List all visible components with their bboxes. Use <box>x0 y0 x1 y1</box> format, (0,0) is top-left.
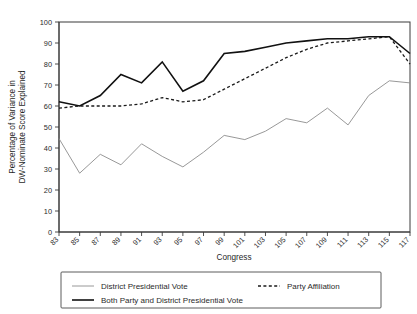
x-tick-label: 99 <box>213 235 225 247</box>
legend-label-0: District Presidential Vote <box>101 282 188 291</box>
x-tick-label: 89 <box>110 235 122 247</box>
x-tick-label: 83 <box>48 235 60 247</box>
series-line-1 <box>59 37 410 108</box>
x-tick-label: 91 <box>131 235 143 247</box>
x-tick-label: 115 <box>376 235 391 250</box>
x-tick-label: 109 <box>314 235 329 250</box>
y-tick-label: 50 <box>44 123 52 132</box>
x-tick-label: 97 <box>193 235 205 247</box>
x-tick-label: 103 <box>252 235 267 250</box>
y-tick-label: 100 <box>40 18 52 27</box>
y-axis-title-line1: Percentage of Variance in <box>8 80 17 174</box>
y-tick-label: 60 <box>44 102 52 111</box>
series-line-2 <box>59 37 410 106</box>
legend-label-2: Both Party and District Presidential Vot… <box>101 296 243 305</box>
y-tick-label: 10 <box>44 207 52 216</box>
y-tick-label: 0 <box>48 228 52 237</box>
x-tick-label: 93 <box>151 235 163 247</box>
y-tick-label: 40 <box>44 144 52 153</box>
y-axis-title-line2: DW-Nominate Score Explained <box>18 70 27 184</box>
y-axis: 0102030405060708090100 <box>40 18 59 237</box>
line-chart: 0102030405060708090100 83858789919395979… <box>0 0 417 314</box>
x-tick-label: 105 <box>272 235 287 250</box>
y-tick-label: 20 <box>44 186 52 195</box>
x-tick-label: 85 <box>69 235 81 247</box>
series-line-0 <box>59 81 410 173</box>
x-tick-label: 113 <box>355 235 370 250</box>
chart-legend: District Presidential VoteParty Affiliat… <box>61 272 381 308</box>
data-series-group <box>59 37 410 174</box>
x-axis: 8385878991939597991011031051071091111131… <box>48 232 411 250</box>
x-tick-label: 117 <box>397 235 412 250</box>
plot-area-border <box>59 22 410 232</box>
x-tick-label: 111 <box>335 235 349 249</box>
y-tick-label: 80 <box>44 60 52 69</box>
plot-frame <box>59 22 410 232</box>
legend-label-1: Party Affiliation <box>287 282 340 291</box>
y-tick-label: 30 <box>44 165 52 174</box>
chart-figure: 0102030405060708090100 83858789919395979… <box>0 0 417 314</box>
x-tick-label: 87 <box>90 235 102 247</box>
x-tick-label: 95 <box>172 235 184 247</box>
y-tick-label: 90 <box>44 39 52 48</box>
x-tick-label: 107 <box>293 235 308 250</box>
x-tick-label: 101 <box>231 235 246 250</box>
y-tick-label: 70 <box>44 81 52 90</box>
x-axis-title: Congress <box>216 253 251 262</box>
